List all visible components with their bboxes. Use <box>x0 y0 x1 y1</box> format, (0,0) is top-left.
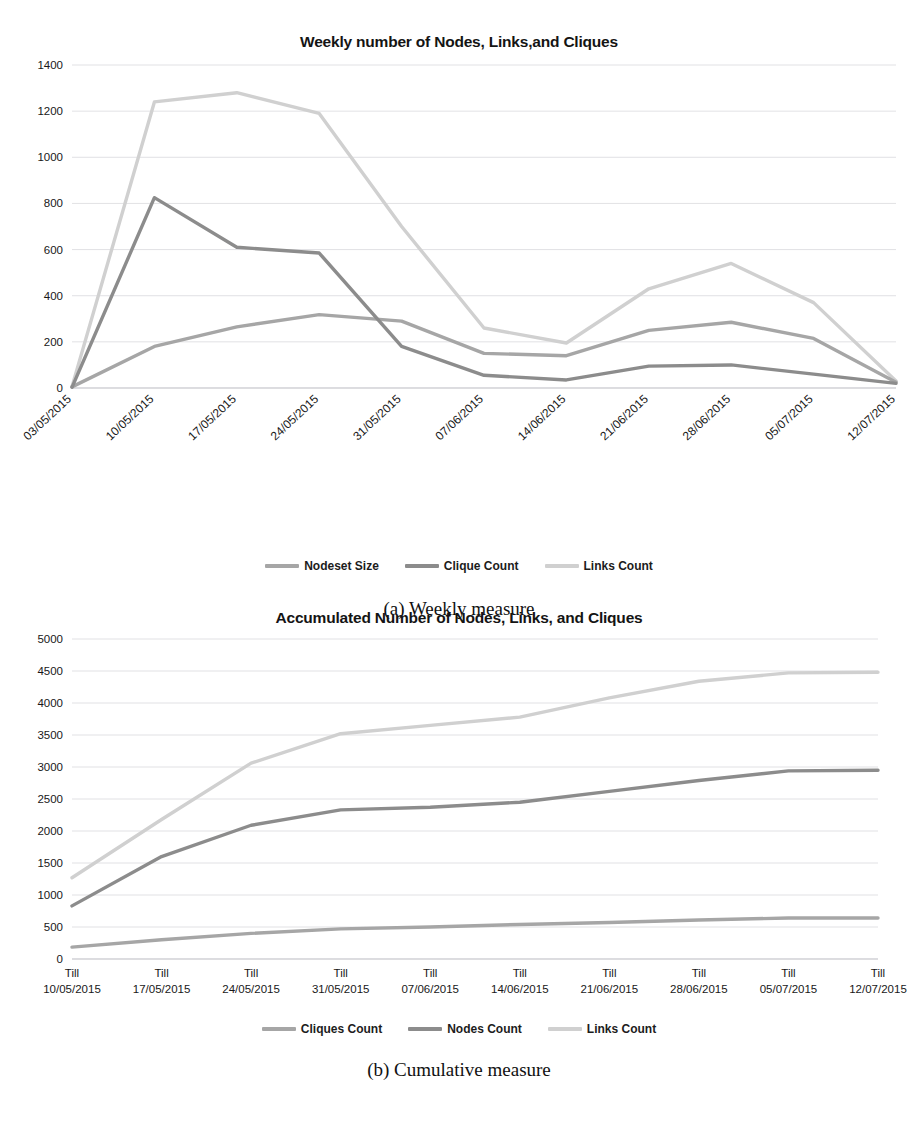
chart-b-plot-area: 0500100015002000250030003500400045005000… <box>0 627 918 1017</box>
x-axis-tick-label: 07/06/2015 <box>433 392 487 443</box>
y-axis-tick-label: 1000 <box>37 889 63 901</box>
legend-item[interactable]: Cliques Count <box>262 1023 382 1035</box>
legend-swatch-icon <box>262 1027 296 1031</box>
chart-b-legend: Cliques CountNodes CountLinks Count <box>0 1023 918 1035</box>
figure-page: Weekly number of Nodes, Links,and Clique… <box>0 0 918 1122</box>
legend-swatch-icon <box>408 1027 442 1031</box>
legend-label: Nodeset Size <box>304 560 379 572</box>
x-axis-tick-label: 21/06/2015 <box>581 983 639 995</box>
chart-a-legend: Nodeset SizeClique CountLinks Count <box>0 560 918 572</box>
legend-item[interactable]: Nodes Count <box>408 1023 522 1035</box>
caption-b: (b) Cumulative measure <box>0 1059 918 1081</box>
legend-label: Nodes Count <box>447 1023 522 1035</box>
y-axis-tick-label: 3000 <box>37 761 63 773</box>
x-axis-tick-label: 14/06/2015 <box>491 983 549 995</box>
y-axis-tick-label: 2500 <box>37 793 63 805</box>
series-line <box>72 198 896 388</box>
chart-b-svg: 0500100015002000250030003500400045005000… <box>0 627 918 1017</box>
y-axis-tick-label: 500 <box>44 921 63 933</box>
y-axis-tick-label: 600 <box>44 244 63 256</box>
x-axis-tick-prefix: Till <box>65 967 79 979</box>
x-axis-tick-label: 14/06/2015 <box>515 392 569 443</box>
x-axis-tick-prefix: Till <box>154 967 168 979</box>
y-axis-tick-label: 2000 <box>37 825 63 837</box>
legend-label: Links Count <box>587 1023 656 1035</box>
x-axis-tick-label: 17/05/2015 <box>133 983 191 995</box>
legend-item[interactable]: Links Count <box>548 1023 656 1035</box>
legend-swatch-icon <box>405 564 439 568</box>
x-axis-tick-label: 05/07/2015 <box>762 392 816 443</box>
x-axis-tick-label: 10/05/2015 <box>43 983 101 995</box>
legend-item[interactable]: Nodeset Size <box>265 560 379 572</box>
y-axis-tick-label: 1000 <box>37 151 63 163</box>
legend-swatch-icon <box>265 564 299 568</box>
y-axis-tick-label: 200 <box>44 336 63 348</box>
x-axis-tick-label: 12/07/2015 <box>845 392 899 443</box>
series-line <box>72 918 878 947</box>
legend-item[interactable]: Clique Count <box>405 560 519 572</box>
x-axis-tick-label: 24/05/2015 <box>222 983 280 995</box>
y-axis-tick-label: 4500 <box>37 665 63 677</box>
x-axis-tick-prefix: Till <box>692 967 706 979</box>
x-axis-tick-label: 07/06/2015 <box>401 983 459 995</box>
figure-weekly-measure: Weekly number of Nodes, Links,and Clique… <box>0 0 918 590</box>
x-axis-tick-label: 12/07/2015 <box>849 983 907 995</box>
chart-a-svg: 020040060080010001200140003/05/201510/05… <box>0 51 918 496</box>
y-axis-tick-label: 5000 <box>37 633 63 645</box>
legend-swatch-icon <box>545 564 579 568</box>
x-axis-tick-prefix: Till <box>871 967 885 979</box>
y-axis-tick-label: 800 <box>44 197 63 209</box>
x-axis-tick-label: 28/06/2015 <box>680 392 734 443</box>
chart-b-title: Accumulated Number of Nodes, Links, and … <box>0 595 918 627</box>
legend-label: Links Count <box>584 560 653 572</box>
x-axis-tick-label: 21/06/2015 <box>597 392 651 443</box>
x-axis-tick-label: 31/05/2015 <box>350 392 404 443</box>
x-axis-tick-prefix: Till <box>334 967 348 979</box>
y-axis-tick-label: 0 <box>57 382 63 394</box>
legend-label: Cliques Count <box>301 1023 382 1035</box>
legend-item[interactable]: Links Count <box>545 560 653 572</box>
y-axis-tick-label: 0 <box>57 953 63 965</box>
legend-swatch-icon <box>548 1027 582 1031</box>
x-axis-tick-label: 24/05/2015 <box>268 392 322 443</box>
y-axis-tick-label: 400 <box>44 290 63 302</box>
y-axis-tick-label: 1200 <box>37 105 63 117</box>
series-line <box>72 93 896 387</box>
x-axis-tick-label: 03/05/2015 <box>21 392 75 443</box>
x-axis-tick-prefix: Till <box>513 967 527 979</box>
series-line <box>72 770 878 906</box>
y-axis-tick-label: 3500 <box>37 729 63 741</box>
legend-label: Clique Count <box>444 560 519 572</box>
x-axis-tick-prefix: Till <box>602 967 616 979</box>
x-axis-tick-label: 28/06/2015 <box>670 983 728 995</box>
figure-cumulative-measure: Accumulated Number of Nodes, Links, and … <box>0 595 918 1122</box>
x-axis-tick-prefix: Till <box>244 967 258 979</box>
y-axis-tick-label: 1400 <box>37 59 63 71</box>
x-axis-tick-label: 31/05/2015 <box>312 983 370 995</box>
y-axis-tick-label: 1500 <box>37 857 63 869</box>
x-axis-tick-prefix: Till <box>423 967 437 979</box>
x-axis-tick-label: 05/07/2015 <box>760 983 818 995</box>
chart-a-plot-area: 020040060080010001200140003/05/201510/05… <box>0 51 918 496</box>
x-axis-tick-label: 17/05/2015 <box>185 392 239 443</box>
y-axis-tick-label: 4000 <box>37 697 63 709</box>
x-axis-tick-prefix: Till <box>781 967 795 979</box>
x-axis-tick-label: 10/05/2015 <box>103 392 157 443</box>
chart-a-title: Weekly number of Nodes, Links,and Clique… <box>0 0 918 51</box>
